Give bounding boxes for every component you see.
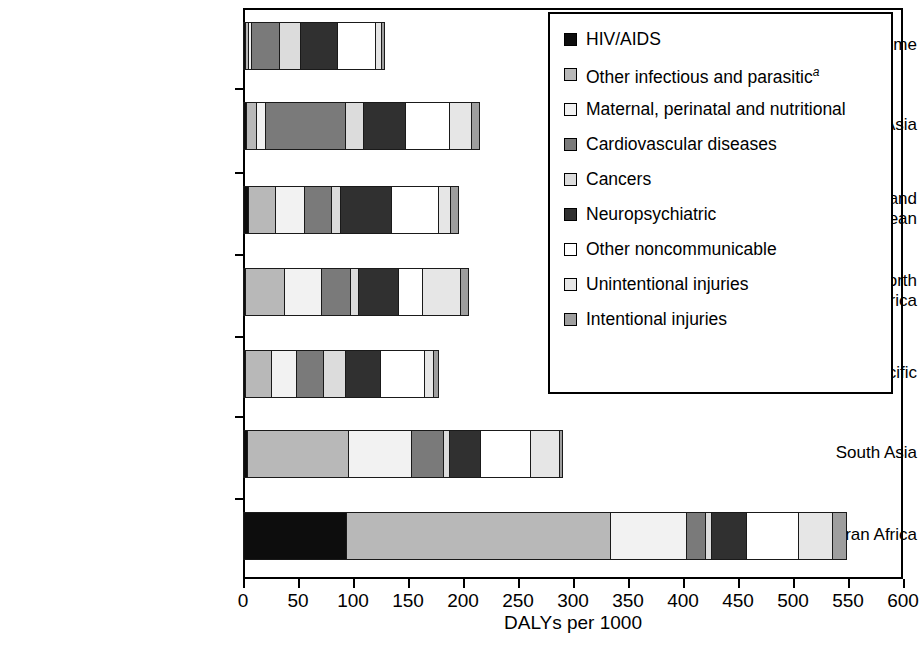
- category-tick: [235, 172, 245, 174]
- legend: HIV/AIDSOther infectious and parasiticaM…: [548, 12, 893, 394]
- bar-segment: [381, 23, 383, 69]
- bar-segment: [350, 269, 359, 315]
- category-label-line: South Asia: [685, 443, 917, 463]
- bar-segment: [251, 23, 280, 69]
- x-axis-tick: [738, 579, 740, 588]
- bar-segment: [348, 431, 411, 477]
- bar-segment: [610, 513, 686, 559]
- legend-label: Neuropsychiatric: [586, 204, 716, 224]
- bar-segment: [345, 103, 363, 149]
- x-axis-tick: [793, 579, 795, 588]
- legend-label: Intentional injuries: [586, 309, 727, 329]
- bar-segment: [331, 187, 340, 233]
- bar-segment: [798, 513, 832, 559]
- bar-segment: [832, 513, 845, 559]
- x-axis-tick-label: 450: [722, 590, 754, 612]
- legend-item: HIV/AIDS: [564, 28, 881, 50]
- bar-segment: [245, 351, 271, 397]
- x-axis-tick-label: 350: [612, 590, 644, 612]
- legend-swatch-icon: [564, 243, 577, 256]
- bar-segment: [746, 513, 799, 559]
- bar-segment: [530, 431, 559, 477]
- bar-segment: [686, 513, 705, 559]
- legend-item: Maternal, perinatal and nutritional: [564, 98, 881, 120]
- bar-segment: [450, 187, 459, 233]
- x-axis-tick-label: 0: [238, 590, 249, 612]
- category-tick: [235, 88, 245, 90]
- x-axis-tick: [298, 579, 300, 588]
- bar-segment: [438, 187, 450, 233]
- bar-segment: [422, 269, 459, 315]
- x-axis-tick-label: 550: [832, 590, 864, 612]
- x-axis-tick-label: 600: [887, 590, 919, 612]
- x-axis-tick: [518, 579, 520, 588]
- bar-segment: [279, 23, 300, 69]
- legend-item: Unintentional injuries: [564, 273, 881, 295]
- legend-label: Unintentional injuries: [586, 274, 748, 294]
- x-axis-tick-label: 100: [337, 590, 369, 612]
- bar-segment: [559, 431, 562, 477]
- bar-segment: [375, 23, 382, 69]
- legend-swatch-icon: [564, 68, 577, 81]
- bar-segment: [358, 269, 398, 315]
- legend-label: Other infectious and parasitica: [586, 62, 819, 87]
- stacked-bar: [243, 350, 439, 398]
- category-tick: [235, 336, 245, 338]
- bar-segment: [323, 351, 345, 397]
- bar-segment: [304, 187, 330, 233]
- bar-segment: [248, 187, 274, 233]
- legend-item: Cardiovascular diseases: [564, 133, 881, 155]
- legend-swatch-icon: [564, 278, 577, 291]
- bar-segment: [405, 103, 449, 149]
- category-tick: [235, 254, 245, 256]
- bar-segment: [247, 431, 348, 477]
- bar-segment: [391, 187, 437, 233]
- bar-segment: [284, 269, 321, 315]
- legend-item: Other infectious and parasitica: [564, 63, 881, 85]
- legend-swatch-icon: [564, 138, 577, 151]
- legend-label: Other noncommunicable: [586, 239, 777, 259]
- x-axis-tick-label: 250: [502, 590, 534, 612]
- bar-segment: [424, 351, 433, 397]
- bar-segment: [363, 103, 405, 149]
- bar-segment: [340, 187, 392, 233]
- stacked-bar: [243, 102, 480, 150]
- x-axis-tick-label: 200: [447, 590, 479, 612]
- x-axis-tick: [848, 579, 850, 588]
- bar-segment: [711, 513, 745, 559]
- x-axis-tick: [463, 579, 465, 588]
- stacked-bar: [243, 512, 847, 560]
- x-axis-tick-label: 50: [287, 590, 308, 612]
- bar-segment: [256, 103, 265, 149]
- x-axis-tick-label: 500: [777, 590, 809, 612]
- bar-segment: [321, 269, 350, 315]
- x-axis-tick: [573, 579, 575, 588]
- stacked-bar: [243, 186, 459, 234]
- x-axis-tick-label: 300: [557, 590, 589, 612]
- x-axis-tick: [353, 579, 355, 588]
- legend-label: HIV/AIDS: [586, 29, 661, 49]
- legend-item: Intentional injuries: [564, 308, 881, 330]
- bar-segment: [337, 23, 374, 69]
- stacked-bar: [243, 268, 469, 316]
- legend-swatch-icon: [564, 208, 577, 221]
- category-tick: [235, 416, 245, 418]
- legend-label: Maternal, perinatal and nutritional: [586, 99, 846, 119]
- bar-segment: [705, 513, 712, 559]
- category-label: South Asia: [685, 443, 917, 463]
- legend-swatch-icon: [564, 313, 577, 326]
- x-axis-tick: [628, 579, 630, 588]
- x-axis-tick-label: 150: [392, 590, 424, 612]
- x-axis-title: DALYs per 1000: [243, 612, 903, 634]
- bar-segment: [346, 513, 610, 559]
- bar-segment: [300, 23, 337, 69]
- bar-segment: [345, 351, 380, 397]
- bar-segment: [245, 269, 284, 315]
- bar-segment: [380, 351, 424, 397]
- bar-segment: [275, 187, 305, 233]
- x-axis-tick: [683, 579, 685, 588]
- legend-item: Other noncommunicable: [564, 238, 881, 260]
- legend-label: Cardiovascular diseases: [586, 134, 777, 154]
- x-axis-tick: [903, 579, 905, 588]
- bar-segment: [265, 103, 345, 149]
